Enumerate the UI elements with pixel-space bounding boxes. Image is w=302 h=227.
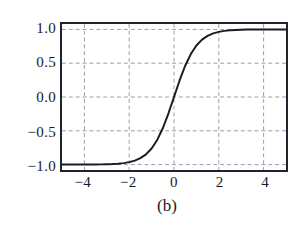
plot-area <box>62 24 286 170</box>
tanh-curve <box>62 24 286 170</box>
y-tick-label: −1.0 <box>4 159 56 174</box>
y-tick-label: 0.5 <box>4 55 56 70</box>
y-axis-labels: 1.00.50.0−0.5−1.0 <box>0 22 56 172</box>
x-tick-label: 0 <box>159 174 189 190</box>
y-tick-label: 1.0 <box>4 21 56 36</box>
y-tick-label: 0.0 <box>4 90 56 105</box>
x-tick-label: 2 <box>205 174 235 190</box>
x-tick-label: −2 <box>113 174 143 190</box>
figure-caption: (b) <box>0 196 302 216</box>
figure-panel: 1.00.50.0−0.5−1.0 −4−2024 (b) <box>0 0 302 227</box>
figure-caption-text: (b) <box>125 196 177 215</box>
x-axis-labels: −4−2024 <box>60 174 288 194</box>
plot-frame <box>60 22 288 172</box>
x-tick-label: −4 <box>68 174 98 190</box>
x-tick-label: 4 <box>250 174 280 190</box>
y-tick-label: −0.5 <box>4 125 56 140</box>
